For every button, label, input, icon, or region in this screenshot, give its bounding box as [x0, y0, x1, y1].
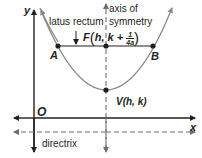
vertex-label: V(h, k) — [116, 97, 147, 107]
y-axis-label: y — [24, 5, 30, 16]
origin-label: O — [37, 106, 46, 118]
axis-of-symmetry-label-2: symmetry — [109, 17, 152, 27]
point-b-label: B — [151, 51, 159, 62]
focus-close-paren: ) — [134, 29, 139, 46]
focus-label: F(h, k + 14a) — [83, 30, 139, 46]
focus-letter: F — [83, 31, 90, 43]
focus-k: k + — [108, 31, 127, 43]
focus-fraction-numerator: 1 — [126, 31, 134, 39]
point-a-label: A — [50, 50, 58, 61]
vertex-point — [103, 87, 108, 92]
point-a — [55, 43, 60, 48]
axis-of-symmetry-label-1: axis of — [109, 4, 138, 14]
x-axis-label: x — [190, 122, 196, 133]
latus-rectum-label: latus rectum — [49, 17, 103, 27]
focus-h: h, — [95, 31, 108, 43]
focus-fraction-denominator: 4a — [126, 39, 134, 46]
focus-fraction: 14a — [126, 31, 134, 46]
point-b — [150, 43, 155, 48]
directrix-label: directrix — [42, 139, 77, 149]
